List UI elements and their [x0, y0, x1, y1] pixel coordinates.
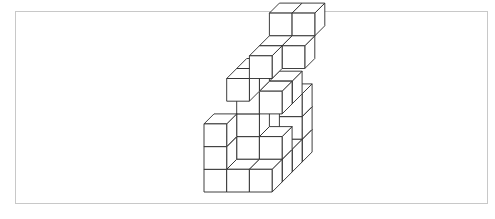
cube — [249, 46, 282, 79]
cube-front-face — [259, 91, 282, 114]
cube-front-face — [237, 137, 260, 160]
cube-front-face — [259, 137, 282, 160]
cube-front-face — [292, 13, 315, 36]
cube-group — [204, 3, 325, 192]
cube-front-face — [282, 46, 305, 69]
cube-front-face — [227, 79, 250, 102]
cube-stack-diagram — [0, 0, 495, 219]
cube — [292, 3, 325, 36]
cube — [249, 159, 282, 192]
cube — [282, 36, 315, 69]
cube-front-face — [237, 114, 260, 137]
cube — [204, 114, 237, 147]
cube-front-face — [249, 169, 272, 192]
cube-front-face — [204, 124, 227, 147]
cube-front-face — [204, 169, 227, 192]
cube-front-face — [249, 56, 272, 79]
cube-front-face — [269, 13, 292, 36]
cube-front-face — [227, 169, 250, 192]
cube-front-face — [204, 147, 227, 170]
